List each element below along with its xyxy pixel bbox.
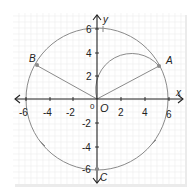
y-tick-label: 2 — [86, 71, 92, 82]
x-tick-label: 4 — [142, 107, 148, 118]
y-tick-label: -2 — [82, 118, 91, 129]
x-tick-label: 6 — [166, 109, 172, 120]
label-O: O — [100, 102, 109, 114]
coordinate-diagram: -6 -4 -2 2 4 6 6 4 2 -2 -4 -6 0 y x A B … — [0, 0, 195, 195]
y-tick-label: -4 — [82, 142, 91, 153]
y-tick-label: -6 — [82, 164, 91, 175]
x-tick-label: -6 — [19, 107, 28, 118]
x-tick-label: -2 — [66, 107, 75, 118]
label-A: A — [165, 55, 173, 66]
origin-zero-label: 0 — [90, 102, 95, 111]
y-tick-label: 4 — [86, 48, 92, 59]
y-axis-label: y — [102, 14, 109, 25]
point-A — [157, 64, 161, 68]
label-C: C — [100, 172, 108, 183]
x-tick-label: 2 — [118, 107, 124, 118]
point-C — [95, 167, 99, 171]
x-axis-label: x — [175, 87, 182, 98]
label-B: B — [29, 53, 36, 64]
y-tick-label: 6 — [86, 24, 92, 35]
x-tick-label: -4 — [43, 107, 52, 118]
